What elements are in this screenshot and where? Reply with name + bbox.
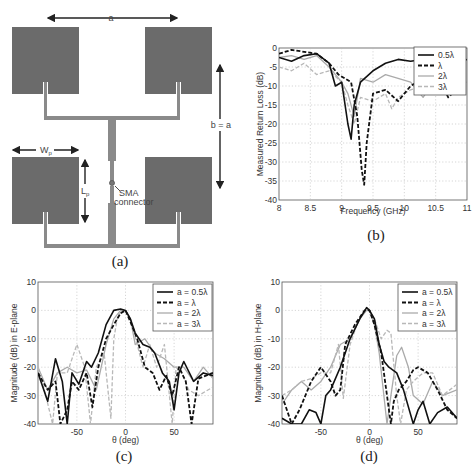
x-tick-label: -50: [315, 427, 328, 437]
x-axis-label: θ (deg): [112, 435, 139, 445]
y-tick-label: 0: [275, 305, 280, 315]
connector-label: connector: [114, 197, 154, 207]
y-tick-label: -20: [24, 362, 37, 372]
legend-entry: a = 3λ: [422, 319, 446, 329]
x-tick-label: -50: [71, 427, 84, 437]
x-tick-label: 8.5: [304, 203, 316, 213]
y-axis-label: Measured Return Loss (dB): [255, 72, 265, 177]
y-tick-label: 0: [31, 305, 36, 315]
y-tick-label: -10: [24, 334, 37, 344]
figure-canvas: a SMA connector: [0, 0, 473, 466]
x-tick-label: 50: [413, 427, 423, 437]
x-tick-label: 10.5: [427, 203, 444, 213]
y-tick-label: -30: [268, 391, 281, 401]
panel-d-h-plane-chart: -50050100-10-20-30-40θ (deg)Magnitude (d…: [253, 277, 457, 445]
legend-entry: a = 2λ: [177, 308, 201, 318]
x-tick-label: 8: [277, 203, 282, 213]
y-tick-label: -10: [268, 334, 281, 344]
y-tick-label: -5: [269, 62, 277, 72]
legend: a = 0.5λa = λa = 2λa = 3λ: [153, 284, 212, 331]
legend-entry: a = 0.5λ: [422, 287, 453, 297]
legend-entry: a = λ: [422, 298, 441, 308]
y-tick-label: -40: [265, 195, 278, 205]
legend-entry: 2λ: [438, 71, 448, 81]
x-tick-label: 50: [169, 427, 179, 437]
x-tick-label: 11: [463, 203, 472, 213]
caption-d: (d): [360, 448, 378, 465]
caption-b: (b): [367, 227, 385, 244]
x-axis-label: Frequency (GHz): [340, 206, 405, 216]
y-axis-label: Magnitude (dB) in E-plane: [9, 303, 19, 402]
legend: a = 0.5λa = λa = 2λa = 3λ: [398, 284, 456, 331]
dimension-b-label: b = a: [211, 120, 231, 130]
y-tick-label: -40: [24, 419, 37, 429]
sma-connector-point: [110, 181, 115, 186]
panel-a-diagram: a SMA connector: [12, 13, 234, 270]
y-tick-label: 0: [272, 43, 277, 53]
y-tick-label: -25: [265, 138, 278, 148]
x-axis-label: θ (deg): [356, 435, 383, 445]
legend-entry: a = 2λ: [422, 308, 446, 318]
legend-entry: a = 0.5λ: [177, 287, 208, 297]
y-tick-label: -40: [268, 419, 281, 429]
legend-entry: a = 3λ: [177, 319, 201, 329]
y-tick-label: -30: [265, 157, 278, 167]
legend-entry: a = λ: [177, 298, 196, 308]
y-tick-label: -20: [265, 119, 278, 129]
y-tick-label: -35: [265, 176, 278, 186]
y-tick-label: 10: [271, 277, 281, 287]
y-tick-label: 10: [27, 277, 37, 287]
y-axis-label: Magnitude (dB) in H-plane: [253, 303, 263, 402]
y-tick-label: -10: [265, 81, 278, 91]
y-tick-label: -15: [265, 100, 278, 110]
y-tick-label: -30: [24, 391, 37, 401]
panel-c-e-plane-chart: -50050100-10-20-30-40θ (deg)Magnitude (d…: [9, 277, 213, 445]
legend: 0.5λλ2λ3λ: [414, 47, 466, 95]
legend-entry: 3λ: [438, 82, 448, 92]
caption-c: (c): [116, 448, 133, 465]
panel-b-return-loss-chart: 88.599.51010.5110-5-10-15-20-25-30-35-40…: [255, 43, 472, 216]
y-tick-label: -20: [268, 362, 281, 372]
caption-a: (a): [112, 253, 129, 270]
legend-entry: 0.5λ: [438, 50, 455, 60]
dimension-a-label: a: [108, 13, 113, 23]
